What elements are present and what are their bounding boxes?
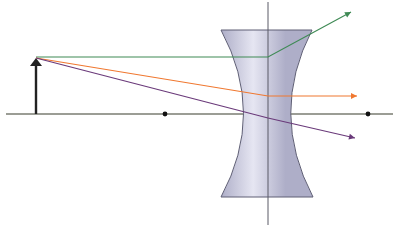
focal-point-dot xyxy=(366,112,371,117)
center-ray xyxy=(36,58,355,138)
center-ray-arrowhead-icon xyxy=(348,134,355,140)
focal-ray-arrowhead-icon xyxy=(351,93,357,99)
ray-diagram xyxy=(0,0,398,228)
diagram-canvas xyxy=(0,0,398,228)
focal-point-dot xyxy=(163,112,168,117)
focal-ray xyxy=(36,58,357,96)
object-arrow xyxy=(30,58,42,114)
